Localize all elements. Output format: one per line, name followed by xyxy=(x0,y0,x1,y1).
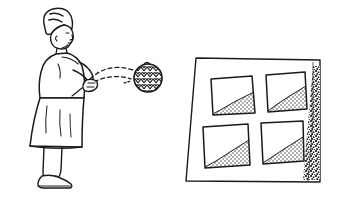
target-board xyxy=(186,58,321,182)
textured-ball xyxy=(132,62,166,96)
skirt xyxy=(30,98,84,147)
hands xyxy=(83,79,98,91)
illustration-root: Woman tossing a textured ball toward a p… xyxy=(0,0,339,199)
motion-arc-tail xyxy=(124,81,131,83)
woman-figure xyxy=(30,8,98,188)
scene-illustration xyxy=(0,0,339,199)
